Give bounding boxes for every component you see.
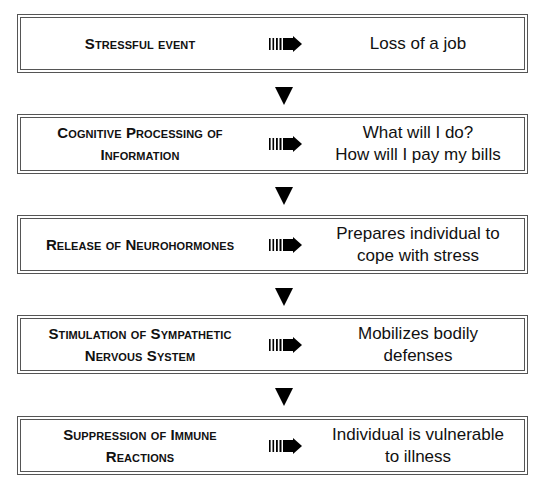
striped-right-arrow-icon	[269, 237, 303, 253]
stage-effect: Prepares individual to cope with stress	[311, 223, 525, 267]
down-triangle-icon	[275, 388, 293, 406]
stage-box-release-neurohormones: Release of Neurohormones Prepares indivi…	[17, 215, 528, 274]
striped-right-arrow-icon	[269, 438, 303, 454]
striped-right-arrow-icon	[269, 337, 303, 353]
stage-box-stressful-event: Stressful event Loss of a job	[17, 14, 528, 73]
stage-effect: Mobilizes bodily defenses	[311, 323, 525, 367]
stage-box-immune-suppression: Suppression of Immune Reactions Individu…	[17, 416, 528, 475]
stage-label: Cognitive Processing of Information	[21, 122, 259, 166]
stage-label: Suppression of Immune Reactions	[21, 424, 259, 468]
stage-box-cognitive-processing: Cognitive Processing of Information What…	[17, 114, 528, 174]
stage-effect: What will I do? How will I pay my bills	[311, 122, 525, 166]
striped-right-arrow-icon	[269, 36, 303, 52]
stage-label: Release of Neurohormones	[21, 234, 259, 256]
flowchart: Stressful event Loss of a job Cognitive …	[17, 0, 528, 489]
stage-box-sympathetic-stimulation: Stimulation of Sympathetic Nervous Syste…	[17, 315, 528, 374]
down-triangle-icon	[275, 288, 293, 306]
down-triangle-icon	[275, 187, 293, 205]
down-triangle-icon	[275, 87, 293, 105]
striped-right-arrow-icon	[269, 136, 303, 152]
stage-label: Stimulation of Sympathetic Nervous Syste…	[21, 323, 259, 367]
stage-effect: Loss of a job	[311, 33, 525, 55]
stage-label: Stressful event	[21, 33, 259, 55]
stage-effect: Individual is vulnerable to illness	[311, 424, 525, 468]
